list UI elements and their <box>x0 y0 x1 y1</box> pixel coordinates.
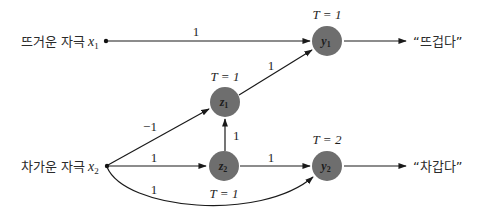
node-z1: T = 1 z1 <box>210 69 240 117</box>
weight-z1-y1: 1 <box>268 58 275 73</box>
weight-x2-y2: 1 <box>151 182 158 197</box>
node-y1: T = 1 y1 <box>312 7 342 56</box>
input-x2-label: 차가운 자극 <box>21 159 85 174</box>
threshold-y2: T = 2 <box>313 132 342 147</box>
weight-x2-z2: 1 <box>151 150 158 165</box>
edges: 1 −1 1 1 1 1 1 <box>107 24 406 206</box>
edge-z1-y1 <box>239 50 312 95</box>
threshold-z2: T = 1 <box>210 186 239 201</box>
node-z2: z2 T = 1 <box>209 151 239 201</box>
weight-x1-y1: 1 <box>193 24 200 39</box>
weight-z2-y2: 1 <box>268 150 275 165</box>
output-y2-label: “차갑다” <box>413 159 462 174</box>
output-y1-label: “뜨겁다” <box>413 34 462 49</box>
neural-network-diagram: 뜨거운 자극 x1 차가운 자극 x2 1 −1 1 1 1 1 1 T = 1… <box>0 0 481 217</box>
weight-z2-z1: 1 <box>233 128 240 143</box>
input-x2: 차가운 자극 x2 <box>21 159 109 176</box>
input-x1-symbol: x1 <box>87 34 99 51</box>
node-y2: T = 2 y2 <box>312 132 342 181</box>
input-x1-label: 뜨거운 자극 <box>21 34 85 49</box>
weight-x2-z1: −1 <box>143 119 157 134</box>
edge-x2-z1 <box>108 109 209 165</box>
threshold-z1: T = 1 <box>211 69 240 84</box>
input-x1: 뜨거운 자극 x1 <box>21 34 108 51</box>
input-x2-symbol: x2 <box>87 159 99 176</box>
threshold-y1: T = 1 <box>313 7 342 22</box>
